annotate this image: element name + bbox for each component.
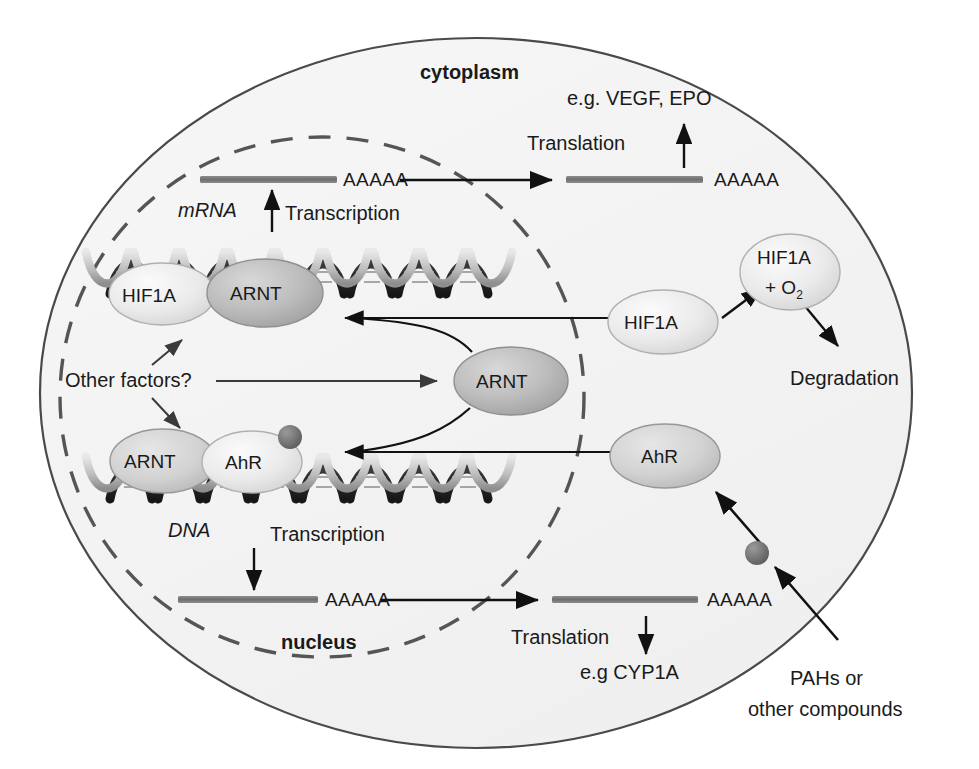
polya-nuclear-bottom: AAAAA <box>325 590 390 609</box>
translation-bottom-label: Translation <box>511 627 609 647</box>
dna-label: DNA <box>168 520 210 540</box>
cytoplasm-label: cytoplasm <box>420 62 519 82</box>
node-label-hif1a-o2-line2: + O2 <box>765 278 803 301</box>
other-factors-label: Other factors? <box>65 370 192 390</box>
node-label-arnt-dna-top: ARNT <box>230 284 282 303</box>
ligand-dot-membrane <box>745 541 769 565</box>
polya-cyto-top: AAAAA <box>714 170 779 189</box>
o2-text: + O <box>765 277 796 298</box>
mrna-bar-nuclear-bottom <box>178 596 318 603</box>
products-top-label: e.g. VEGF, EPO <box>567 88 712 108</box>
transcription-top-label: Transcription <box>285 203 400 223</box>
products-bottom-label: e.g CYP1A <box>580 662 679 682</box>
o2-subscript: 2 <box>796 288 803 302</box>
node-label-arnt-free: ARNT <box>476 372 528 391</box>
polya-cyto-bottom: AAAAA <box>707 590 772 609</box>
node-label-arnt-dna-bottom: ARNT <box>124 452 176 471</box>
ligand-dot-ahr-dna <box>278 425 302 449</box>
ligand-label-line2: other compounds <box>748 699 903 719</box>
translation-top-label: Translation <box>527 133 625 153</box>
mrna-bar-nuclear-top <box>200 176 337 183</box>
mrna-label: mRNA <box>178 200 237 220</box>
node-label-ahr-cyto: AhR <box>641 447 678 466</box>
polya-nuclear-top: AAAAA <box>343 170 408 189</box>
diagram-canvas: cytoplasm nucleus e.g. VEGF, EPO Transla… <box>0 0 979 769</box>
degradation-label: Degradation <box>790 368 899 388</box>
nucleus-label: nucleus <box>281 632 357 652</box>
node-label-hif1a-cyto: HIF1A <box>624 313 678 332</box>
node-label-hif1a-dna: HIF1A <box>122 286 176 305</box>
node-label-hif1a-o2-line1: HIF1A <box>757 248 811 267</box>
ligand-label-line1: PAHs or <box>790 668 863 688</box>
mrna-bar-cyto-bottom <box>552 596 698 603</box>
mrna-bar-cyto-top <box>566 176 703 183</box>
transcription-bottom-label: Transcription <box>270 524 385 544</box>
node-label-ahr-dna: AhR <box>225 453 262 472</box>
